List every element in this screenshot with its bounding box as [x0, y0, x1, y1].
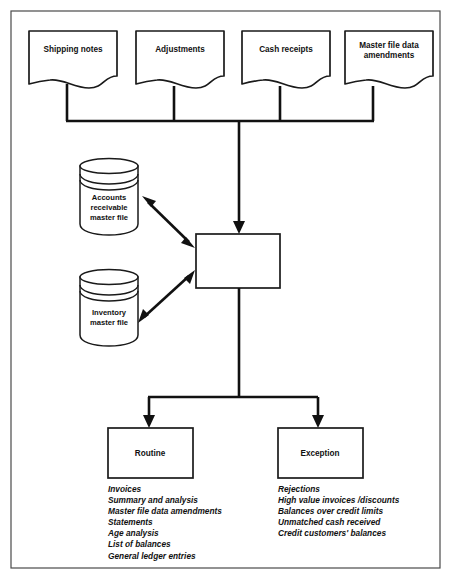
- list-item: List of balances: [108, 539, 222, 550]
- diagram-page: Shipping notes Adjustments Cash receipts…: [0, 0, 450, 582]
- list-item: Summary and analysis: [108, 495, 222, 506]
- datastore-label-line3: master file: [90, 213, 128, 222]
- routine-output-list: Invoices Summary and analysis Master fil…: [108, 484, 222, 562]
- datastore-inventory: Inventory master file: [80, 270, 138, 347]
- datastore-accounts-receivable: Accounts receivable master file: [80, 159, 138, 236]
- input-label: Shipping notes: [43, 45, 103, 54]
- document-icon: [29, 31, 117, 88]
- list-item: Credit customers' balances: [278, 528, 399, 539]
- input-document-master-file-data-amendments: Master file data amendments: [345, 31, 433, 88]
- process-box: [196, 234, 280, 288]
- list-item: Unmatched cash received: [278, 517, 399, 528]
- exception-output-list: Rejections High value invoices /discount…: [278, 484, 399, 539]
- list-item: High value invoices /discounts: [278, 495, 399, 506]
- list-item: Master file data amendments: [108, 506, 222, 517]
- input-document-shipping-notes: Shipping notes: [29, 31, 117, 88]
- list-item: Balances over credit limits: [278, 506, 399, 517]
- input-label-line2: amendments: [364, 51, 415, 60]
- output-box-routine-label: Routine: [135, 449, 166, 458]
- datastore-label-line2: receivable: [90, 203, 127, 212]
- input-label: Cash receipts: [259, 45, 313, 54]
- list-item: Statements: [108, 517, 222, 528]
- list-item: Rejections: [278, 484, 399, 495]
- input-document-cash-receipts: Cash receipts: [242, 31, 330, 88]
- list-item: General ledger entries: [108, 551, 222, 562]
- document-icon: [136, 31, 224, 88]
- datastore-label-line1: Accounts: [92, 193, 127, 202]
- database-cylinder-top: [80, 159, 138, 174]
- output-box-exception-label: Exception: [300, 449, 339, 458]
- input-label: Adjustments: [155, 45, 205, 54]
- list-item: Invoices: [108, 484, 222, 495]
- document-icon: [242, 31, 330, 88]
- list-item: Age analysis: [108, 528, 222, 539]
- datastore-label-line2: master file: [90, 318, 128, 327]
- input-label-line1: Master file data: [359, 41, 419, 50]
- database-cylinder-top: [80, 270, 138, 285]
- input-document-adjustments: Adjustments: [136, 31, 224, 88]
- datastore-label-line1: Inventory: [92, 308, 127, 317]
